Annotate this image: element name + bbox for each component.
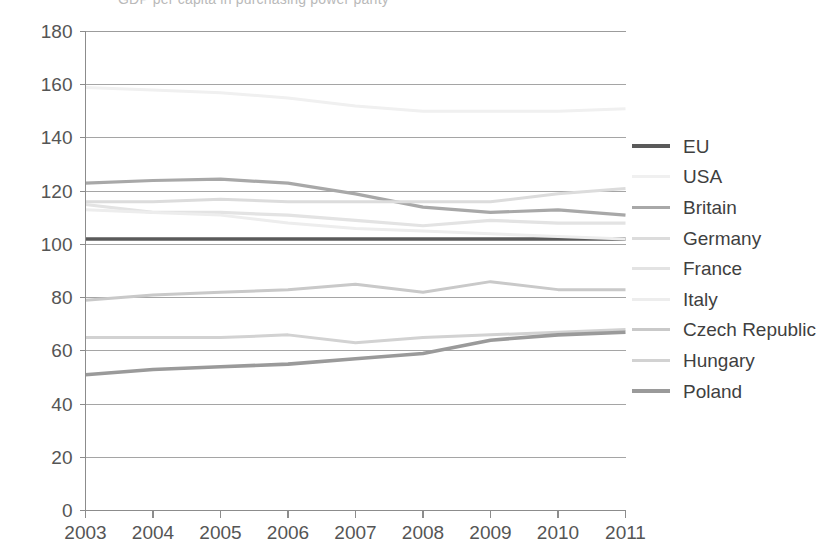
legend-line-swatch [632, 328, 670, 331]
y-axis-tick-label: 120 [41, 181, 73, 202]
legend-item-label: EU [683, 137, 709, 156]
legend-item-italy[interactable]: Italy [632, 284, 817, 315]
legend-item-usa[interactable]: USA [632, 162, 817, 193]
series-line-france [86, 204, 626, 225]
x-axis-ticks: 200320042005200620072008200920102011 [64, 511, 646, 543]
legend-item-label: Poland [683, 382, 742, 401]
x-axis-tick-label: 2010 [537, 522, 579, 543]
legend-item-czech-republic[interactable]: Czech Republic [632, 315, 817, 346]
legend-item-hungary[interactable]: Hungary [632, 345, 817, 376]
legend-line-swatch [632, 267, 670, 270]
legend-item-label: Hungary [683, 351, 755, 370]
y-axis-tick-label: 140 [41, 127, 73, 148]
x-axis-tick-label: 2005 [199, 522, 241, 543]
legend-item-britain[interactable]: Britain [632, 192, 817, 223]
y-axis-tick-label: 80 [51, 287, 72, 308]
x-axis-tick-label: 2003 [64, 522, 106, 543]
y-axis-tick-label: 160 [41, 74, 73, 95]
y-axis-tick-label: 60 [51, 340, 72, 361]
legend-line-swatch [632, 206, 670, 209]
legend-line-swatch [632, 359, 670, 362]
axis-lines [86, 32, 626, 511]
x-axis-tick-label: 2008 [402, 522, 444, 543]
y-axis-ticks: 020406080100120140160180 [41, 21, 86, 521]
y-axis-tick-label: 180 [41, 21, 73, 42]
legend-line-swatch [632, 237, 670, 240]
legend-item-label: Germany [683, 229, 761, 248]
x-axis-tick-label: 2004 [132, 522, 175, 543]
y-axis-tick-label: 40 [51, 394, 72, 415]
legend-item-label: Italy [683, 290, 718, 309]
x-axis-tick-label: 2009 [469, 522, 511, 543]
gdp-per-capita-line-chart: GDP per capita in purchasing power parit… [0, 0, 817, 553]
x-axis-tick-label: 2011 [605, 522, 646, 543]
series-line-britain [86, 179, 626, 215]
x-axis-tick-label: 2006 [267, 522, 309, 543]
legend-item-label: USA [683, 167, 722, 186]
x-axis-tick-label: 2007 [334, 522, 376, 543]
legend-line-swatch [632, 175, 670, 178]
chart-legend: EUUSABritainGermanyFranceItalyCzech Repu… [632, 131, 817, 406]
legend-line-swatch [632, 389, 670, 393]
legend-item-label: France [683, 259, 742, 278]
series-line-italy [86, 210, 626, 239]
legend-line-swatch [632, 144, 670, 148]
legend-line-swatch [632, 298, 670, 301]
legend-item-label: Britain [683, 198, 737, 217]
data-series-group [86, 87, 626, 374]
legend-item-poland[interactable]: Poland [632, 376, 817, 407]
legend-item-germany[interactable]: Germany [632, 223, 817, 254]
legend-item-label: Czech Republic [683, 320, 816, 339]
legend-item-eu[interactable]: EU [632, 131, 817, 162]
series-line-usa [86, 87, 626, 111]
y-axis-tick-label: 20 [51, 447, 72, 468]
gridlines-group [86, 32, 626, 458]
y-axis-tick-label: 100 [41, 234, 73, 255]
y-axis-tick-label: 0 [62, 500, 73, 521]
legend-item-france[interactable]: France [632, 253, 817, 284]
